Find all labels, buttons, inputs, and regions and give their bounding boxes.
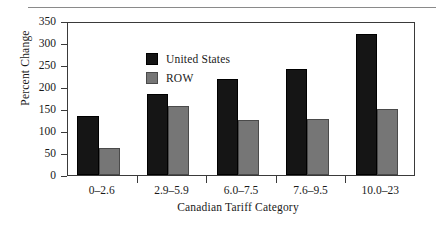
y-axis-tick-label: 300 [22,38,56,50]
bar-row [307,119,328,175]
chart-legend: United States ROW [146,50,276,88]
top-rule-divider [28,7,436,8]
x-axis-tick-label: 2.9–5.9 [131,185,211,197]
bar-row [238,120,259,175]
y-axis-tick-labels: 050100150200250300350 [22,0,56,233]
x-axis-tick-mark [137,176,138,183]
x-axis-tick-label: 6.0–7.5 [201,185,281,197]
bar-united-states [217,79,238,175]
x-axis-tick-label: 7.6–9.5 [271,185,351,197]
x-axis-tick-label: 0–2.6 [62,185,142,197]
x-axis-tick-mark [345,176,346,183]
x-axis-tick-mark [206,176,207,183]
y-axis-tick-label: 150 [22,104,56,116]
plot-area: United States ROW [67,22,415,176]
y-axis-tick-label: 50 [22,148,56,160]
bar-chart-figure: Percent Change Canadian Tariff Category … [0,0,442,233]
bar-row [99,148,120,175]
y-axis-tick-label: 100 [22,126,56,138]
black-square-swatch-icon [146,53,158,65]
y-axis-tick-mark [61,176,67,177]
legend-label-united-states: United States [166,53,230,65]
bar-united-states [356,34,377,175]
y-axis-tick-label: 250 [22,60,56,72]
y-axis-tick-label: 350 [22,16,56,28]
y-axis-tick-label: 200 [22,82,56,94]
legend-label-row: ROW [166,72,193,84]
y-axis-tick-label: 0 [22,170,56,182]
x-axis-tick-label: 10.0–23 [340,185,420,197]
x-axis-tick-mark [276,176,277,183]
legend-item-row: ROW [146,69,276,86]
bar-united-states [286,69,307,175]
legend-item-united-states: United States [146,50,276,67]
bar-united-states [77,116,98,175]
bar-row [168,106,189,175]
bar-row [377,109,398,175]
x-axis-title: Canadian Tariff Category [60,201,416,213]
bar-united-states [147,94,168,175]
gray-square-swatch-icon [146,72,158,84]
